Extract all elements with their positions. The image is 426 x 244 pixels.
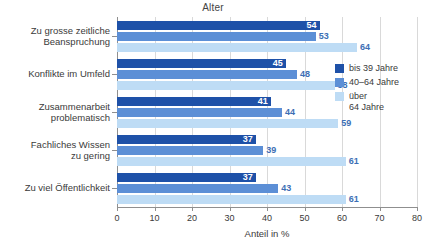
bar-value-label: 53 [319,32,329,41]
bar-value-label: 41 [117,97,271,106]
bar-value-label: 37 [117,135,256,144]
legend-label: 40–64 Jahre [349,77,399,88]
x-tick-label: 80 [412,213,422,223]
bar-fill [117,108,282,117]
bar[interactable]: 61 [117,195,417,204]
x-tick-label: 50 [299,213,309,223]
bar-fill [117,119,338,128]
bar-group: 545364 [117,17,417,55]
bar-fill [117,184,278,193]
bar[interactable]: 53 [117,32,417,41]
bar-group: 373961 [117,131,417,169]
x-tick-label: 40 [262,213,272,223]
bar-chart: Alter Zu grosse zeitlicheBeanspruchungKo… [0,0,426,244]
category-tick [112,36,117,37]
category-label: Fachliches Wissenzu gering [0,139,110,162]
bar-value-label: 61 [349,157,359,166]
legend-item[interactable]: bis 39 Jahre [335,63,425,74]
x-tick [192,207,193,211]
chart-title: Alter [0,2,426,13]
bar-value-label: 64 [360,43,370,52]
bar[interactable]: 37 [117,135,417,144]
category-tick [112,112,117,113]
bar[interactable]: 61 [117,157,417,166]
bar[interactable]: 59 [117,119,417,128]
bar-value-label: 44 [285,108,295,117]
x-tick-label: 30 [224,213,234,223]
bar-value-label: 61 [349,195,359,204]
legend-item[interactable]: 40–64 Jahre [335,77,425,88]
bar-value-label: 43 [281,184,291,193]
bar-group: 374361 [117,169,417,207]
category-axis: Zu grosse zeitlicheBeanspruchungKonflikt… [0,17,110,207]
legend-item[interactable]: über 64 Jahre [335,91,425,113]
bar-fill [117,32,316,41]
bar-fill [117,195,346,204]
legend-label: über 64 Jahre [349,91,384,113]
x-tick [117,207,118,211]
x-tick-label: 60 [337,213,347,223]
x-tick [305,207,306,211]
category-label: Zu viel Öffentlichkeit [0,182,110,194]
x-tick [417,207,418,211]
category-tick [112,188,117,189]
x-tick-label: 10 [149,213,159,223]
bar-fill [117,146,263,155]
bar-fill [117,70,297,79]
bar[interactable]: 39 [117,146,417,155]
x-tick [155,207,156,211]
category-tick [112,150,117,151]
bar[interactable]: 64 [117,43,417,52]
x-tick [380,207,381,211]
x-tick-label: 70 [374,213,384,223]
legend-swatch-icon [335,78,344,87]
bar-fill [117,43,357,52]
legend-swatch-icon [335,92,344,101]
x-tick [342,207,343,211]
x-tick-label: 0 [114,213,119,223]
x-tick [230,207,231,211]
category-label: Zu grosse zeitlicheBeanspruchung [0,25,110,48]
category-label: Zusammenarbeitproblematisch [0,101,110,124]
bar-value-label: 54 [117,21,320,30]
bar[interactable]: 37 [117,173,417,182]
category-label: Konflikte im Umfeld [0,68,110,80]
bar-fill [117,81,335,90]
bar-value-label: 37 [117,173,256,182]
legend-swatch-icon [335,64,344,73]
bar[interactable]: 54 [117,21,417,30]
bar-value-label: 45 [117,59,286,68]
category-tick [112,74,117,75]
bar-value-label: 59 [341,119,351,128]
bar-value-label: 39 [266,146,276,155]
x-tick-label: 20 [187,213,197,223]
bar[interactable]: 43 [117,184,417,193]
bar-fill [117,157,346,166]
x-axis-label: Anteil in % [117,228,417,239]
bar-value-label: 48 [300,70,310,79]
x-tick [267,207,268,211]
legend-label: bis 39 Jahre [349,63,398,74]
legend: bis 39 Jahre40–64 Jahreüber 64 Jahre [335,63,425,116]
